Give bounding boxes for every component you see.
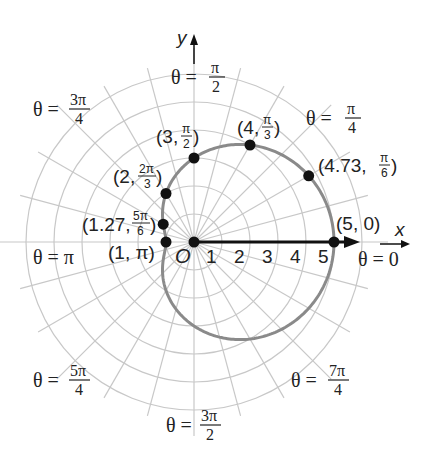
- data-point: [161, 237, 172, 248]
- point-label-prefix: (3,: [156, 126, 178, 147]
- point-label-5-0: (5, 0): [336, 213, 380, 234]
- frac-num: 7π: [329, 362, 345, 379]
- point-label-prefix: (1.27,: [82, 214, 131, 235]
- frac-num: 3π: [201, 407, 217, 424]
- point-label-close: ): [150, 214, 156, 235]
- frac-num: π: [347, 100, 355, 117]
- x-arrow-icon: [401, 240, 410, 248]
- angle-prefix: θ =: [166, 414, 192, 436]
- angle-label-0: θ = 0: [358, 248, 399, 270]
- polar-axis-arrow-icon: [344, 236, 360, 248]
- data-point: [245, 140, 256, 151]
- angle-prefix: θ =: [33, 98, 59, 120]
- frac-num: 5π: [70, 362, 86, 379]
- point-label-close: ): [274, 117, 280, 138]
- tick-2: 2: [234, 246, 245, 267]
- origin-label: O: [175, 245, 191, 267]
- angle-prefix: θ =: [33, 369, 59, 391]
- frac-den: 2: [206, 426, 214, 443]
- angle-prefix: θ =: [291, 369, 317, 391]
- point-label-1-pi: (1, π): [108, 242, 155, 263]
- point-label-1.27-5pi6: (1.27, 5π 6 ): [82, 209, 156, 238]
- data-point: [161, 188, 172, 199]
- data-point: [158, 219, 169, 230]
- x-axis-label: x: [394, 219, 406, 240]
- tick-3: 3: [262, 246, 273, 267]
- point-label-3-pi2: (3, π 2 ): [156, 122, 199, 151]
- frac-num: π: [182, 122, 190, 136]
- point-label-prefix: (4,: [237, 117, 259, 138]
- frac-den: 3: [144, 177, 151, 191]
- data-point: [329, 237, 340, 248]
- frac-num: 2π: [139, 162, 154, 176]
- frac-den: 4: [75, 110, 83, 127]
- angle-prefix: θ =: [171, 66, 197, 88]
- y-axis-label: y: [175, 27, 188, 48]
- tick-4: 4: [290, 246, 301, 267]
- polar-graph: x y O 1 2 3 4 5 (5, 0) (4.73, π 6 ) (4, …: [0, 0, 434, 464]
- point-label-4-pi3: (4, π 3 ): [237, 113, 280, 142]
- angle-prefix: θ =: [306, 107, 332, 129]
- angle-label-pi4: θ = π 4: [306, 100, 361, 136]
- frac-den: 4: [75, 381, 83, 398]
- point-label-close: ): [156, 166, 162, 187]
- point-label-4.73-pi6: (4.73, π 6 ): [318, 151, 397, 180]
- point-label-2-2pi3: (2, 2π 3 ): [113, 162, 162, 191]
- frac-num: π: [380, 151, 388, 165]
- frac-den: 4: [334, 381, 342, 398]
- data-point: [303, 170, 314, 181]
- frac-den: 2: [183, 137, 190, 151]
- data-point: [189, 153, 200, 164]
- point-label-prefix: (4.73,: [318, 155, 367, 176]
- point-label-prefix: (2,: [113, 166, 135, 187]
- grid-spoke: [194, 242, 368, 289]
- y-arrow-icon: [190, 34, 198, 45]
- frac-den: 6: [137, 224, 144, 238]
- point-label-close: ): [193, 126, 199, 147]
- angle-label-pi: θ = π: [33, 246, 74, 268]
- frac-den: 3: [264, 128, 271, 142]
- tick-labels: 1 2 3 4 5: [206, 246, 329, 267]
- tick-5: 5: [318, 246, 329, 267]
- grid-spoke: [147, 242, 194, 416]
- frac-num: 5π: [133, 209, 148, 223]
- angle-label-pi2: θ = π 2: [171, 59, 225, 95]
- frac-den: 4: [348, 119, 356, 136]
- point-label-close: ): [391, 155, 397, 176]
- frac-den: 2: [212, 78, 220, 95]
- frac-num: π: [263, 113, 271, 127]
- frac-num: π: [211, 59, 219, 76]
- angle-label-5pi4: θ = 5π 4: [33, 362, 90, 398]
- tick-1: 1: [206, 246, 217, 267]
- frac-den: 6: [381, 166, 388, 180]
- frac-num: 3π: [70, 91, 86, 108]
